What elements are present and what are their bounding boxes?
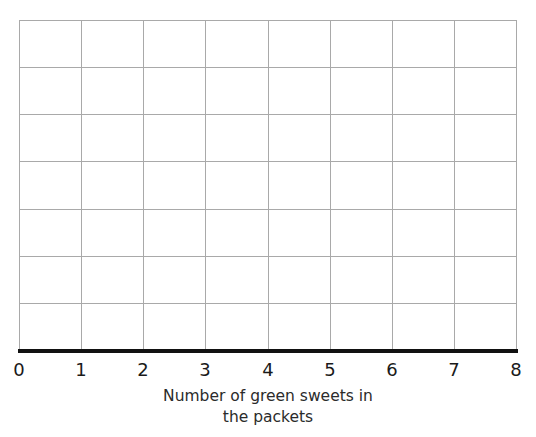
gridline-vertical <box>454 20 455 351</box>
grid-lines <box>19 20 517 351</box>
gridline-vertical <box>516 20 517 351</box>
clipped-chart-title <box>0 0 536 4</box>
x-axis-line <box>18 349 518 353</box>
gridline-vertical <box>19 20 20 351</box>
x-axis-title-line-1: Number of green sweets in <box>0 386 536 407</box>
x-axis-title-line-2: the packets <box>0 407 536 428</box>
gridline-horizontal <box>19 114 517 115</box>
gridline-vertical <box>205 20 206 351</box>
x-tick-label-7: 7 <box>434 357 474 383</box>
gridline-vertical <box>143 20 144 351</box>
gridline-horizontal <box>19 161 517 162</box>
x-tick-label-8: 8 <box>496 357 536 383</box>
gridline-horizontal <box>19 67 517 68</box>
chart-screenshot: 012345678 Number of green sweets in the … <box>0 0 536 437</box>
x-tick-label-5: 5 <box>310 357 350 383</box>
x-tick-label-3: 3 <box>185 357 225 383</box>
gridline-horizontal <box>19 256 517 257</box>
plot-area <box>19 20 517 351</box>
x-axis-tick-labels: 012345678 <box>0 357 536 383</box>
x-axis-title: Number of green sweets in the packets <box>0 386 536 428</box>
x-tick-label-4: 4 <box>248 357 288 383</box>
x-tick-label-0: 0 <box>0 357 39 383</box>
gridline-horizontal <box>19 20 517 21</box>
gridline-vertical <box>392 20 393 351</box>
gridline-vertical <box>81 20 82 351</box>
gridline-vertical <box>330 20 331 351</box>
x-tick-label-6: 6 <box>372 357 412 383</box>
gridline-horizontal <box>19 303 517 304</box>
gridline-horizontal <box>19 209 517 210</box>
x-tick-label-2: 2 <box>123 357 163 383</box>
x-tick-label-1: 1 <box>61 357 101 383</box>
gridline-vertical <box>268 20 269 351</box>
